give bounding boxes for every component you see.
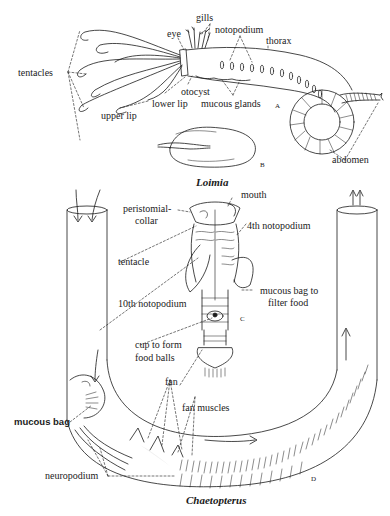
label-abdomen: abdomen (332, 154, 369, 165)
panel-letter-c: C (240, 314, 245, 325)
label-cup-line1: cup to form (135, 339, 182, 350)
label-mucous-bag-filter-line2: filter food (268, 297, 308, 308)
label-notopodium-a: notopodium (215, 24, 263, 35)
annelid-feeding-figure: tentacles upper lip eye gills notopodium… (0, 0, 390, 516)
title-loimia: Loimia (196, 176, 228, 188)
title-chaetopterus: Chaetopterus (186, 494, 247, 506)
panel-letter-a: A (275, 101, 280, 112)
label-mouth: mouth (241, 189, 267, 200)
loimia-leader-lines (68, 24, 378, 160)
label-fan-muscles: fan muscles (182, 402, 230, 413)
label-neuropodium: neuropodium (45, 470, 98, 481)
label-peristomial-collar-line1: peristomial- (123, 203, 171, 214)
label-tentacles: tentacles (18, 67, 53, 78)
panel-letter-d: D (311, 474, 316, 485)
label-lower-lip: lower lip (152, 98, 188, 109)
label-otocyst: otocyst (181, 86, 210, 97)
label-thorax: thorax (266, 35, 292, 46)
label-fan: fan (165, 376, 178, 387)
illustration-line-art (0, 0, 390, 516)
chaetopterus-body-leader-lines (100, 198, 252, 385)
loimia-tube-drawing (158, 127, 255, 167)
label-4th-notopodium: 4th notopodium (247, 220, 311, 231)
label-peristomial-collar-line2: collar (135, 215, 158, 226)
label-tentacle: tentacle (118, 256, 149, 267)
chaetopterus-body-drawing (186, 202, 253, 377)
label-cup-line2: food balls (135, 352, 175, 363)
label-10th-notopodium: 10th notopodium (118, 298, 187, 309)
panel-letter-b: B (260, 160, 265, 171)
loimia-worm-drawing (78, 27, 383, 154)
label-mucous-bag-filter-line1: mucous bag to (260, 285, 318, 296)
label-eye: eye (167, 28, 181, 39)
label-mucous-bag: mucous bag (14, 416, 70, 427)
label-upper-lip: upper lip (101, 110, 137, 121)
label-mucous-glands: mucous glands (201, 98, 261, 109)
chaetopterus-tube-drawing (67, 190, 377, 488)
label-gills: gills (196, 12, 213, 23)
